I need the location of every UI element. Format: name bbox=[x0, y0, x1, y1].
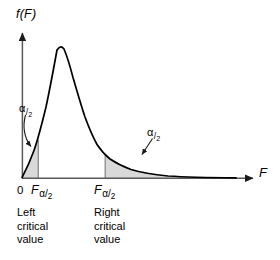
y-axis-label-var: F bbox=[24, 7, 32, 21]
right-critical-value-tick-label: Fα/2 bbox=[94, 184, 115, 202]
right-caption-line-1: Right bbox=[94, 206, 125, 220]
left-tail-alpha-annotation: α/2 bbox=[19, 103, 32, 118]
left-critical-value-tick-label: Fα/2 bbox=[31, 184, 52, 202]
left-tick-subscript: α/2 bbox=[39, 189, 52, 202]
f-distribution-chart: f(F) F 0 Fα/2 Fα/2 α/2 α/2 Left critical… bbox=[0, 0, 280, 260]
right-ann-fraction: /2 bbox=[154, 132, 160, 142]
right-tick-base: F bbox=[94, 183, 102, 197]
left-ann-two: 2 bbox=[28, 110, 32, 119]
left-caption-line-2: critical bbox=[17, 220, 48, 234]
left-caption-line-1: Left bbox=[17, 206, 48, 220]
left-tick-base: F bbox=[31, 183, 39, 197]
right-tick-two: 2 bbox=[111, 192, 116, 201]
right-ann-two: 2 bbox=[156, 134, 160, 143]
right-critical-value-caption: Right critical value bbox=[94, 206, 125, 247]
y-axis-label-close-paren: ) bbox=[32, 7, 36, 21]
right-ann-alpha: α bbox=[147, 126, 153, 138]
left-alpha-arrow-icon bbox=[24, 115, 31, 147]
density-curve bbox=[22, 47, 236, 178]
right-caption-line-3: value bbox=[94, 233, 125, 247]
left-tick-two: 2 bbox=[48, 192, 53, 201]
y-axis-label: f(F) bbox=[16, 8, 36, 21]
x-axis-label: F bbox=[259, 166, 267, 179]
left-critical-value-caption: Left critical value bbox=[17, 206, 48, 247]
left-caption-line-3: value bbox=[17, 233, 48, 247]
x-axis-origin-label: 0 bbox=[17, 185, 23, 197]
right-tail-alpha-annotation: α/2 bbox=[147, 127, 160, 142]
right-caption-line-2: critical bbox=[94, 220, 125, 234]
right-tick-subscript: α/2 bbox=[102, 189, 115, 202]
left-ann-fraction: /2 bbox=[26, 108, 32, 118]
left-ann-alpha: α bbox=[19, 102, 25, 114]
